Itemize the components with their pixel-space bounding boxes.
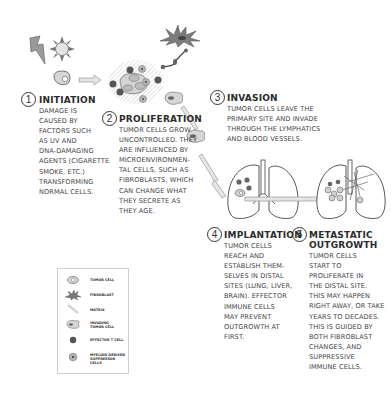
- lightning-bolt-icon: [26, 36, 48, 66]
- fibroblast: [160, 25, 200, 49]
- legend-item-tumor-cell: TUMOR CELL: [58, 274, 128, 288]
- step-3-body: TUMOR CELLS LEAVE THE PRIMARY SITE AND I…: [227, 104, 320, 144]
- step-1-body: DAMAGE IS CAUSED BY FACTORS SUCH AS UV A…: [39, 106, 109, 197]
- matrix-icon: [67, 304, 79, 314]
- legend-label: MYELOID DERIVED SUPPRESSOR CELLS: [90, 353, 128, 366]
- legend-item-matrix: MATRIX: [58, 304, 128, 318]
- legend: TUMOR CELL FIBROBLAST MATRIX INVADING TU…: [57, 268, 129, 374]
- legend-label: TUMOR CELL: [90, 278, 114, 282]
- step-5-title: METASTATIC OUTGROWTH: [309, 230, 377, 250]
- effector-t-cell-icon: [69, 336, 77, 344]
- legend-item-fibroblast: FIBROBLAST: [58, 289, 128, 303]
- step-2-body: TUMOR CELLS GROW UNCONTROLLED. THEY ARE …: [119, 125, 197, 216]
- step-5-number: 5: [292, 227, 307, 242]
- invading-tumor-cell-icon: [66, 320, 80, 329]
- effector-cell-chain: [160, 48, 190, 70]
- arrow-initiation-to-proliferation: [79, 75, 101, 85]
- legend-item-effector-t-cell: EFFECTOR T CELL: [58, 335, 128, 349]
- step-1-title: INITIATION: [39, 95, 96, 105]
- legend-label: FIBROBLAST: [90, 293, 114, 297]
- step-2-title: PROLIFERATION: [119, 114, 202, 124]
- myeloid-suppressor-cell-icon: [68, 352, 78, 362]
- step-5-body: TUMOR CELLS START TO PROLIFERATE IN THE …: [309, 251, 385, 372]
- step-4-title: IMPLANTATION: [224, 230, 302, 240]
- lungs-metastatic-outgrowth: [314, 160, 391, 222]
- step-3-number: 3: [210, 90, 225, 105]
- tumor-cell-icon: [67, 276, 79, 284]
- step-4-number: 4: [207, 227, 222, 242]
- step-1-number: 1: [21, 92, 36, 107]
- fibroblast-icon: [65, 290, 81, 300]
- legend-label: MATRIX: [90, 308, 105, 312]
- legend-item-myeloid-suppressor-cells: MYELOID DERIVED SUPPRESSOR CELLS: [58, 351, 128, 365]
- legend-label: EFFECTOR T CELL: [90, 338, 123, 342]
- normal-cell-icon: [52, 70, 72, 86]
- step-4-body: TUMOR CELLS REACH AND ESTABLISH THEM- SE…: [224, 241, 292, 342]
- legend-label: INVADING TUMOR CELL: [90, 321, 114, 329]
- lungs-implantation: [225, 160, 305, 222]
- step-2-number: 2: [102, 111, 117, 126]
- step-3-title: INVASION: [227, 93, 278, 103]
- legend-item-invading-tumor-cell: INVADING TUMOR CELL: [58, 319, 128, 333]
- sun-uv-icon: [49, 36, 75, 62]
